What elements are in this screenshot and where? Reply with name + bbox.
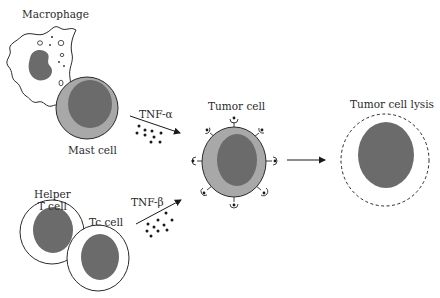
label-tc-cell: Tc cell bbox=[89, 216, 123, 228]
diagram-canvas bbox=[0, 0, 440, 298]
mast-cell-nucleus bbox=[68, 80, 112, 128]
mast-cell bbox=[56, 77, 118, 139]
lysed-cell-nucleus bbox=[358, 122, 414, 188]
tnf-alpha-molecules bbox=[136, 125, 163, 144]
label-helper-t-cell: Helper T cell bbox=[34, 188, 71, 212]
tnf-alpha-signal bbox=[130, 116, 180, 144]
tnf-beta-molecules bbox=[146, 212, 174, 238]
tc-cell-nucleus bbox=[81, 234, 119, 280]
tumor-cell-nucleus bbox=[217, 134, 257, 186]
lysed-tumor-cell bbox=[341, 114, 429, 206]
label-tnf-alpha: TNF-α bbox=[139, 108, 173, 120]
label-tumor-cell-lysis: Tumor cell lysis bbox=[350, 98, 434, 110]
tc-cell bbox=[67, 225, 129, 291]
label-mast-cell: Mast cell bbox=[68, 144, 117, 156]
label-tnf-beta: TNF-β bbox=[131, 196, 164, 208]
label-helper-t-cell-line1: Helper bbox=[34, 188, 71, 200]
label-helper-t-cell-line2: T cell bbox=[34, 200, 71, 212]
label-tumor-cell: Tumor cell bbox=[208, 100, 265, 112]
label-macrophage: Macrophage bbox=[22, 8, 89, 20]
tnf-tumor-lysis-diagram: Macrophage Mast cell Helper T cell Tc ce… bbox=[0, 0, 440, 298]
helper-t-cell-nucleus bbox=[33, 207, 73, 253]
tumor-cell bbox=[192, 117, 277, 208]
